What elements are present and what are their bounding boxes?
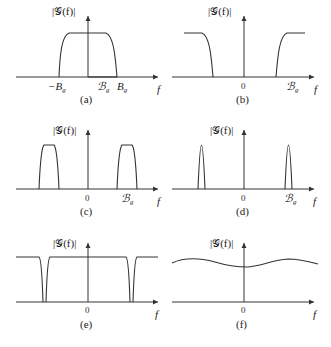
spectrum-figure: |𝒢(f)| f −Bg ℬg Bg (a) |𝒢(f)| f 0 ℬg (b)… bbox=[0, 0, 331, 347]
x-axis-label: f bbox=[157, 83, 162, 95]
caption-f: (f) bbox=[236, 318, 247, 331]
tick-bg-script: ℬg bbox=[121, 192, 134, 206]
tick-zero: 0 bbox=[85, 193, 90, 203]
y-axis-label: |𝒢(f)| bbox=[210, 237, 233, 250]
tick-zero: 0 bbox=[241, 193, 246, 203]
highpass-curve-left bbox=[184, 33, 213, 77]
caption-c: (c) bbox=[80, 205, 93, 218]
tick-bg-script: ℬg bbox=[286, 80, 299, 94]
y-axis-label: |𝒢(f)| bbox=[208, 5, 231, 18]
caption-e: (e) bbox=[80, 318, 93, 331]
y-axis-label: |𝒢(f)| bbox=[53, 124, 76, 137]
notch-curve bbox=[16, 257, 158, 302]
caption-d: (d) bbox=[236, 205, 249, 218]
y-axis-label: |𝒢(f)| bbox=[52, 5, 75, 18]
caption-b: (b) bbox=[236, 93, 249, 106]
narrowband-pulse-left bbox=[198, 145, 205, 189]
y-axis-label: |𝒢(f)| bbox=[53, 237, 76, 250]
x-axis-label: f bbox=[313, 308, 318, 320]
tick-neg-bg: −Bg bbox=[48, 80, 66, 94]
panel-b: |𝒢(f)| f 0 ℬg (b) bbox=[172, 5, 319, 106]
bandpass-pulse-right bbox=[117, 145, 137, 189]
wideband-curve bbox=[172, 259, 318, 267]
caption-a: (a) bbox=[80, 93, 93, 106]
panel-a: |𝒢(f)| f −Bg ℬg Bg (a) bbox=[16, 5, 162, 106]
x-axis-label: f bbox=[314, 83, 319, 95]
x-axis-label: f bbox=[155, 308, 160, 320]
panel-d: |𝒢(f)| f 0 ℬg (d) bbox=[172, 124, 318, 218]
x-axis-label: f bbox=[313, 195, 318, 207]
highpass-curve-right bbox=[276, 33, 305, 77]
tick-zero: 0 bbox=[241, 305, 246, 315]
panel-c: |𝒢(f)| f 0 ℬg (c) bbox=[16, 124, 162, 218]
x-axis-label: f bbox=[157, 195, 162, 207]
narrowband-pulse-right bbox=[285, 145, 292, 189]
tick-zero: 0 bbox=[241, 81, 246, 91]
tick-zero: 0 bbox=[85, 305, 90, 315]
panel-e: |𝒢(f)| f 0 (e) bbox=[16, 237, 160, 331]
y-axis-label: |𝒢(f)| bbox=[210, 124, 233, 137]
panel-f: |𝒢(f)| f 0 (f) bbox=[172, 237, 318, 331]
tick-bg-script: ℬg bbox=[284, 192, 297, 206]
tick-bg: Bg bbox=[117, 80, 128, 94]
bandpass-pulse-left bbox=[39, 145, 59, 189]
tick-bg-script: ℬg bbox=[97, 80, 110, 94]
